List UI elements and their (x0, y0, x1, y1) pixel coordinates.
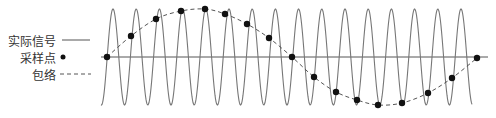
sample-point (354, 97, 360, 103)
sample-point (128, 33, 134, 39)
legend-label-actual-signal: 实际信号 (2, 32, 56, 49)
sample-point (222, 11, 228, 17)
sample-point (244, 21, 250, 27)
sample-point (202, 6, 208, 12)
sample-point (425, 90, 431, 96)
legend-item-actual-signal: 实际信号 (2, 32, 56, 49)
sample-point (474, 55, 480, 61)
legend-label-envelope: 包络 (2, 66, 56, 83)
sample-point (289, 54, 295, 60)
sample-point (104, 54, 110, 60)
sample-point (311, 74, 317, 80)
sample-point (333, 89, 339, 95)
legend-item-envelope: 包络 (2, 66, 56, 83)
legend-label-sample-points: 采样点 (2, 49, 56, 66)
sample-point (153, 16, 159, 22)
sample-point (178, 8, 184, 14)
sample-point (449, 75, 455, 81)
sample-point (266, 35, 272, 41)
sample-point (375, 102, 381, 108)
sample-point (399, 100, 405, 106)
legend-item-sample-points: 采样点 (2, 49, 56, 66)
legend: 实际信号 采样点 包络 (0, 0, 100, 118)
